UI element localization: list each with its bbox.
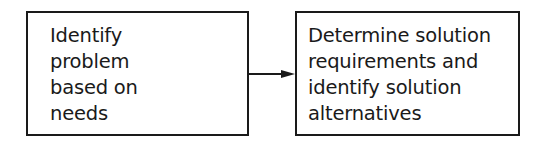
step-identify-problem-box: Identify problem based on needs	[26, 11, 249, 136]
step-identify-problem-label: Identify problem based on needs	[50, 23, 138, 127]
step-determine-requirements-label: Determine solution requirements and iden…	[308, 23, 491, 127]
step-determine-requirements-box: Determine solution requirements and iden…	[295, 11, 520, 136]
arrow-right-icon	[247, 66, 297, 82]
